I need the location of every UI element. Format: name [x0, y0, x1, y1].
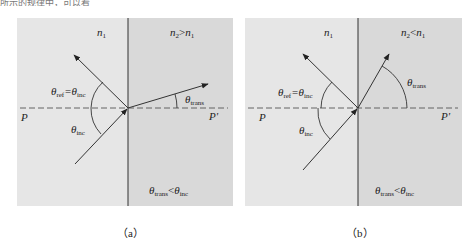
label-p: P [258, 111, 266, 123]
label-p-prime: P' [440, 110, 451, 122]
caption-b: （b） [346, 224, 374, 240]
label-p-prime: P' [208, 110, 219, 122]
label-p: P [20, 111, 28, 123]
panel-a: n1 n2>n1 θref=θinc θinc θtrans P P' θtra… [17, 18, 233, 206]
panel-b: n1 n2<n1 θref=θinc θinc θtrans P P' θtra… [245, 18, 462, 206]
refraction-diagram: n1 n2>n1 θref=θinc θinc θtrans P P' θtra… [0, 0, 473, 247]
medium-n1-region [17, 18, 128, 206]
caption-a: （a） [117, 224, 144, 240]
